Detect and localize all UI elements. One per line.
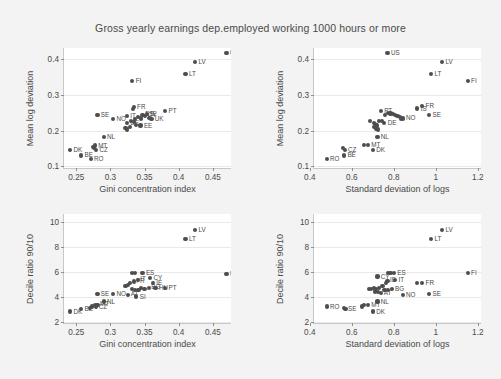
y-axis-tick-label: 2	[54, 317, 59, 326]
x-axis-tick-label: 0.6	[346, 328, 357, 337]
x-axis-tick-label: 0.25	[68, 173, 84, 182]
data-point	[427, 113, 431, 117]
data-point	[325, 304, 329, 308]
y-axis-tick	[311, 131, 314, 132]
data-point-label: NL	[107, 133, 115, 139]
x-axis-title: Gini concentration index	[64, 184, 231, 194]
y-axis-tick-label: 0.2	[298, 126, 309, 135]
data-point-label: NO	[406, 291, 415, 297]
x-axis-tick	[145, 168, 146, 171]
data-point-label: LT	[435, 71, 442, 77]
data-point-label: DK	[376, 147, 385, 153]
data-point	[379, 109, 383, 113]
x-axis-tick-label: 0.3	[105, 328, 116, 337]
y-axis-title: Decile ratio 90/10	[275, 214, 285, 324]
data-point-label: RO	[330, 156, 339, 162]
data-point	[466, 271, 470, 275]
data-point-label: SE	[432, 112, 440, 118]
data-point-label: PT	[168, 285, 176, 291]
gridline	[64, 222, 231, 223]
data-point	[183, 237, 187, 241]
y-axis-tick-label: 8	[304, 242, 309, 251]
data-point	[360, 304, 364, 308]
data-point	[366, 303, 370, 307]
data-point-label: EE	[144, 122, 152, 128]
y-axis-tick-label: 0.3	[48, 90, 59, 99]
x-axis-tick-label: 0.25	[68, 328, 84, 337]
data-point-label: LV	[199, 227, 206, 233]
panel-top-right: USLVLTFIFRISSEPTNODENLMTCZDKBERO0.10.20.…	[313, 48, 481, 169]
plot-area: USLVLTFIFRISSEPTNODENLMTCZDKBERO	[314, 48, 481, 168]
plot-frame: USLVLTFIFRISSEPTNODENLMTCZDKBERO0.10.20.…	[313, 48, 481, 169]
y-axis-title: Mean log deviation	[275, 48, 285, 169]
x-axis-tick-label: 0.45	[205, 173, 221, 182]
y-axis-tick-label: 4	[304, 292, 309, 301]
y-axis-tick-label: 0.3	[298, 90, 309, 99]
gridline	[314, 59, 481, 60]
data-point-label: SE	[101, 112, 109, 118]
y-axis-tick	[311, 222, 314, 223]
gridline	[314, 322, 481, 323]
data-point-label: SE	[348, 305, 356, 311]
data-point	[126, 293, 130, 297]
x-axis-tick	[394, 168, 395, 171]
data-point-label: PT	[168, 108, 176, 114]
y-axis-tick	[61, 166, 64, 167]
data-point	[371, 148, 375, 152]
panel-bottom-left: LVLTUSESCYIEITFRBGHUPTATSINOSENLMTCZBEDK…	[63, 214, 231, 324]
gridline	[64, 59, 231, 60]
x-axis-tick	[110, 168, 111, 171]
gridline	[64, 297, 231, 298]
data-point	[375, 135, 379, 139]
plot-frame: LVLTFIESCYITIEFRBGNOSEATNLMTSERODK246810…	[313, 214, 481, 324]
data-point-label: RO	[330, 303, 339, 309]
x-axis-tick	[179, 168, 180, 171]
y-axis-tick	[311, 297, 314, 298]
data-point-label: SE	[101, 291, 109, 297]
data-point	[102, 135, 106, 139]
gridline	[64, 322, 231, 323]
data-point	[130, 79, 134, 83]
x-axis-tick	[145, 323, 146, 326]
gridline	[64, 95, 231, 96]
data-point-label: LV	[446, 227, 453, 233]
data-point-label: NL	[381, 298, 389, 304]
data-point	[193, 228, 197, 232]
data-point	[420, 281, 424, 285]
x-axis-tick-label: 0.8	[388, 173, 399, 182]
data-point-label: NL	[381, 133, 389, 139]
data-point	[193, 60, 197, 64]
x-axis-title: Standard deviation of logs	[314, 339, 481, 349]
data-point-label: FR	[426, 102, 434, 108]
y-axis-tick-label: 0.1	[48, 162, 59, 171]
x-axis-tick-label: 0.3	[105, 173, 116, 182]
data-point-label: FR	[426, 280, 434, 286]
data-point	[440, 228, 444, 232]
data-point	[224, 272, 228, 276]
x-axis-tick	[310, 323, 311, 326]
y-axis-tick	[311, 166, 314, 167]
data-point-label: FI	[471, 270, 477, 276]
data-point	[94, 305, 98, 309]
data-point	[111, 292, 115, 296]
data-point	[123, 284, 127, 288]
data-point	[68, 148, 72, 152]
plot-area: LVLTUSESCYIEITFRBGHUPTATSINOSENLMTCZBEDK	[64, 214, 231, 323]
data-point-label: CZ	[99, 303, 107, 309]
data-point	[427, 292, 431, 296]
data-point-label: LV	[446, 59, 453, 65]
panel-bottom-right: LVLTFIESCYITIEFRBGNOSEATNLMTSERODK246810…	[313, 214, 481, 324]
data-point	[163, 109, 167, 113]
data-point	[147, 286, 151, 290]
gridline	[64, 247, 231, 248]
y-axis-tick-label: 8	[54, 242, 59, 251]
data-point-label: LV	[199, 59, 206, 65]
data-point	[148, 276, 152, 280]
data-point-label: BE	[347, 152, 355, 158]
y-axis-title: Decile ratio 90/10	[25, 214, 35, 324]
data-point-label: BE	[84, 306, 92, 312]
x-axis-tick-label: 0.35	[137, 328, 153, 337]
data-point-label: LT	[189, 71, 196, 77]
data-point-label: SI	[140, 293, 146, 299]
plot-frame: LVLTUSESCYIEITFRBGHUPTATSINOSENLMTCZBEDK…	[63, 214, 231, 324]
